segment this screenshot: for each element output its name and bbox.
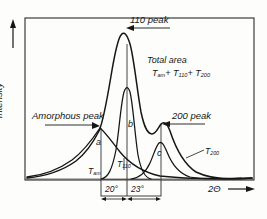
y-axis-label: Intensity [0,83,4,118]
y-axis-arrow-icon [10,19,16,48]
formula-plus-2: + [187,68,192,78]
marker-b: b [128,119,133,129]
angle-label-second: 23° [131,184,144,194]
curve-total-envelope [27,33,252,179]
angle-label-first: 20° [105,184,118,194]
leader-amorphous-peak [45,122,100,129]
x-axis-arrow-icon [228,186,255,192]
label-t200: T200 [205,146,219,156]
curve-t200 [131,142,241,179]
leader-200-peak [162,121,205,127]
label-200-peak: 200 peak [172,110,211,121]
x-axis-label: 2Θ [208,183,221,194]
tam-sub: am [93,170,100,176]
leader-110-peak [126,25,170,31]
formula-plus-1: + [165,68,170,78]
label-110-peak: 110 peak [130,14,168,25]
label-tam: Tam [88,166,101,176]
t200-sub: 200 [210,150,219,156]
label-t110: T110 [117,159,131,169]
label-total-area-formula: Tam+ T110+ T200 [152,68,210,78]
marker-a: a [96,137,101,147]
leader-t200 [186,150,204,158]
label-total-area: Total area [147,55,187,65]
xrd-figure: 110 peak Total area Tam+ T110+ T200 Amor… [0,0,267,219]
label-amorphous-peak: Amorphous peak [32,110,104,121]
marker-c: c [157,148,162,158]
t110-sub: 110 [122,163,130,169]
formula-t3-sub: 200 [201,72,210,78]
